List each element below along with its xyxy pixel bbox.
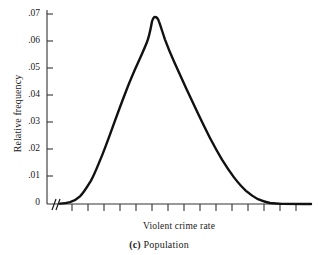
y-tick-label-07: .07 bbox=[14, 9, 40, 19]
density-curve bbox=[60, 17, 311, 204]
x-axis-title: Violent crime rate bbox=[47, 221, 311, 231]
distribution-plot bbox=[0, 0, 318, 255]
y-tick-label-06: .06 bbox=[14, 36, 40, 46]
x-axis-ticks bbox=[72, 204, 296, 211]
figure-caption-text: Population bbox=[144, 239, 189, 250]
figure-population-distribution: .07 .06 .05 .04 .03 .02 .01 0 Relative f… bbox=[0, 0, 318, 255]
y-axis-ticks bbox=[47, 14, 53, 176]
y-tick-label-0: 0 bbox=[14, 198, 40, 208]
figure-caption: (c) Population bbox=[0, 239, 318, 250]
y-axis-title: Relative frequency bbox=[12, 49, 23, 179]
figure-caption-tag: (c) bbox=[129, 239, 141, 250]
